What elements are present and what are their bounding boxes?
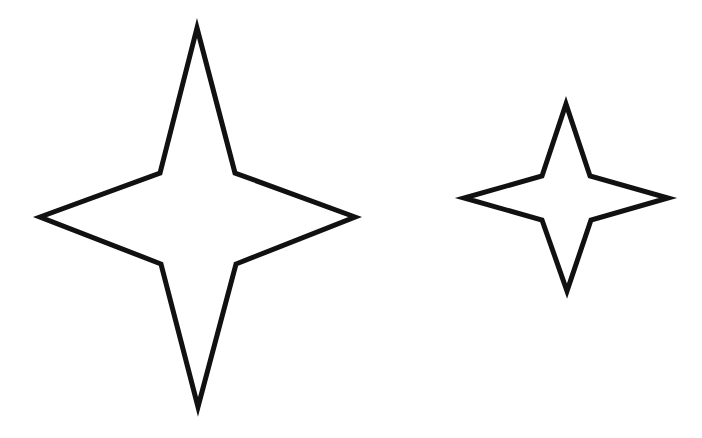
- small-star-icon: [464, 104, 668, 291]
- star-diagram: [0, 0, 702, 438]
- large-star-icon: [40, 28, 355, 407]
